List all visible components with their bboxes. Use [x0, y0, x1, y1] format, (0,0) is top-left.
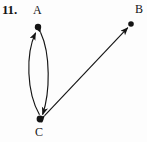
edge-a-to-c-right [41, 33, 49, 115]
edges-group [29, 28, 128, 116]
vertex-b-dot [128, 21, 134, 27]
vertex-a-dot [35, 24, 41, 30]
vertex-label-c: C [35, 126, 43, 138]
vertex-c-dot [37, 116, 44, 123]
graph-canvas [0, 0, 147, 142]
edge-b-c [45, 28, 128, 116]
vertex-label-b: B [135, 3, 143, 15]
graph-figure: 11. A B C [0, 0, 147, 142]
edge-c-to-a-left [29, 33, 40, 115]
vertex-label-a: A [33, 4, 42, 16]
problem-number-label: 11. [2, 3, 17, 16]
